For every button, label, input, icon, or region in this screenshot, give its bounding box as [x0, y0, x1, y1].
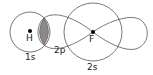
f-atom-label: F [89, 35, 94, 44]
h-atom-label: H [26, 34, 33, 43]
h-orbital-label: 1s [25, 53, 35, 62]
f-orbital-label: 2s [87, 63, 97, 72]
hf-orbital-diagram [0, 0, 153, 75]
bond-orbital-label: 2p [54, 46, 65, 55]
